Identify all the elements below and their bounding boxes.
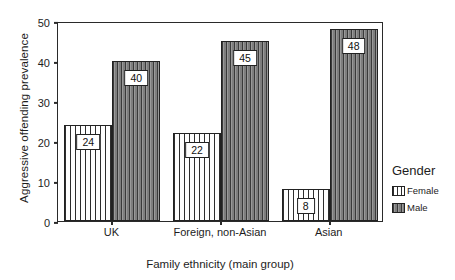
bar-value-label: 40 (124, 70, 148, 86)
x-axis-tick-mark (111, 221, 113, 225)
bar-value-label: 48 (342, 38, 366, 54)
bar-value-label: 24 (76, 134, 100, 150)
plot-area: 0102030405024402245848 (57, 22, 383, 222)
y-axis-tick-label: 50 (14, 17, 58, 29)
female-swatch-icon (392, 186, 405, 196)
x-axis-category-label: UK (104, 226, 119, 238)
legend-item-male[interactable]: Male (392, 202, 454, 213)
y-axis-tick-mark (54, 142, 58, 144)
legend-label-male: Male (407, 202, 428, 213)
bar-value-label: 8 (297, 198, 315, 214)
y-axis-title: Aggressive offending prevalence (18, 8, 30, 228)
x-axis-tick-mark (220, 221, 222, 225)
male-swatch-icon (392, 203, 405, 213)
bar-male-2 (330, 29, 378, 221)
x-axis-category-label: Asian (315, 226, 343, 238)
y-axis-tick-mark (54, 62, 58, 64)
y-axis-tick-label: 10 (14, 177, 58, 189)
bar-value-label: 45 (233, 50, 257, 66)
y-axis-tick-mark (54, 182, 58, 184)
legend-item-female[interactable]: Female (392, 185, 454, 196)
y-axis-tick-label: 20 (14, 137, 58, 149)
y-axis-tick-label: 40 (14, 57, 58, 69)
y-axis-tick-label: 30 (14, 97, 58, 109)
legend-title: Gender (392, 163, 454, 178)
bar-value-label: 22 (185, 142, 209, 158)
plot-inner: 0102030405024402245848 (58, 23, 382, 221)
y-axis-tick-mark (54, 102, 58, 104)
x-axis-title: Family ethnicity (main group) (57, 258, 383, 270)
x-axis-tick-mark (329, 221, 331, 225)
y-axis-tick-mark (54, 222, 58, 224)
y-axis-tick-mark (54, 22, 58, 24)
legend: Gender Female Male (392, 163, 454, 219)
x-axis-category-label: Foreign, non-Asian (174, 226, 267, 238)
bar-male-1 (221, 41, 269, 221)
bar-chart-figure: Aggressive offending prevalence 01020304… (0, 0, 455, 280)
legend-label-female: Female (407, 185, 439, 196)
y-axis-tick-label: 0 (14, 217, 58, 229)
